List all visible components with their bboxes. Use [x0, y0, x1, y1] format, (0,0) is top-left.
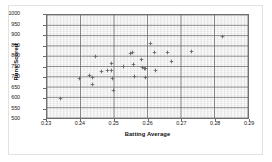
plot-area: [46, 14, 249, 119]
y-tick-mark: [43, 25, 46, 26]
y-tick-label: 500: [0, 116, 20, 121]
x-tick-mark: [46, 119, 47, 122]
x-tick-mark: [114, 119, 115, 122]
x-axis-title: Batting Average: [46, 131, 249, 137]
x-tick-mark: [181, 119, 182, 122]
y-tick-mark: [43, 98, 46, 99]
y-tick-mark: [43, 67, 46, 68]
y-tick-mark: [43, 14, 46, 15]
y-tick-mark: [43, 109, 46, 110]
y-tick-mark: [43, 35, 46, 36]
y-tick-mark: [43, 46, 46, 47]
y-tick-mark: [43, 77, 46, 78]
y-tick-mark: [43, 56, 46, 57]
y-tick-label: 1000: [0, 11, 20, 16]
y-tick-label: 550: [0, 106, 20, 111]
y-axis-title: Runs Scored: [13, 27, 19, 97]
x-tick-mark: [215, 119, 216, 122]
x-tick-mark: [80, 119, 81, 122]
chart-figure: 5005506006507007508008509009501000 0.230…: [0, 0, 272, 162]
x-tick-mark: [148, 119, 149, 122]
major-gridlines: [47, 15, 248, 118]
y-tick-mark: [43, 88, 46, 89]
x-tick-mark: [249, 119, 250, 122]
